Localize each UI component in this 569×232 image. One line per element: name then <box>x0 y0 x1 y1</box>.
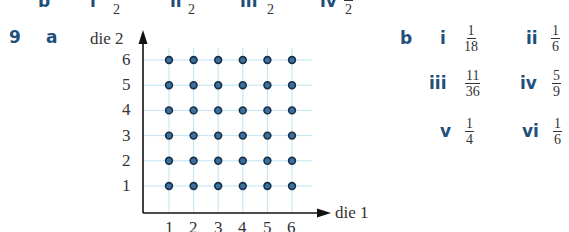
answer-label-i: i <box>440 28 446 48</box>
answer-label-vi: vi <box>522 121 539 141</box>
answer-fraction-ii: 1 6 <box>551 24 560 54</box>
x-tick-5: 5 <box>263 218 272 232</box>
answer-fraction-i: 1 18 <box>464 24 478 54</box>
answer-label-iv: iv <box>520 73 537 93</box>
y-tick-1: 1 <box>122 176 131 196</box>
answer-fraction-vi: 1 6 <box>553 117 562 147</box>
y-axis-arrowhead <box>139 30 148 44</box>
y-tick-6: 6 <box>122 50 131 70</box>
x-tick-1: 1 <box>165 218 174 232</box>
y-tick-3: 3 <box>122 126 131 146</box>
part-b-label: b <box>400 28 412 48</box>
y-tick-2: 2 <box>122 151 131 171</box>
x-tick-3: 3 <box>214 218 223 232</box>
x-axis-label: die 1 <box>335 203 369 223</box>
answer-fraction-v: 1 4 <box>465 117 474 147</box>
y-tick-5: 5 <box>122 75 131 95</box>
outcome-dots <box>166 57 296 190</box>
graph-canvas <box>0 0 569 232</box>
answer-label-ii: ii <box>526 28 538 48</box>
answer-label-v: v <box>440 121 451 141</box>
x-tick-4: 4 <box>238 218 247 232</box>
answer-fraction-iv: 5 9 <box>552 69 561 99</box>
y-axis-label: die 2 <box>90 29 124 49</box>
x-axis-arrowhead <box>317 209 331 218</box>
x-tick-2: 2 <box>189 218 198 232</box>
answer-label-iii: iii <box>429 73 446 93</box>
x-tick-6: 6 <box>287 218 296 232</box>
y-tick-4: 4 <box>122 100 131 120</box>
answer-fraction-iii: 11 36 <box>465 69 480 99</box>
